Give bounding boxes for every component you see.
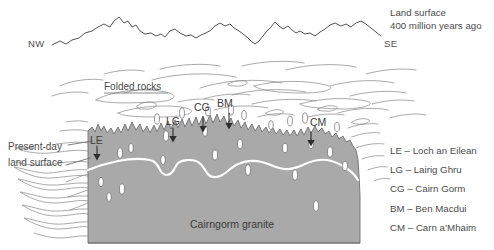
legend-name-cm: Carn a’Mhaim (416, 222, 476, 233)
legend-dash-lg: – (406, 164, 411, 175)
legend-dash-le: – (405, 145, 410, 156)
legend-item-le: LE – Loch an Eilean (390, 145, 477, 156)
land-surface-note-line1: Land surface (390, 6, 482, 19)
legend-code-lg: LG (390, 164, 403, 175)
geological-cross-section-figure: Land surface 400 million years ago NW SE… (0, 0, 494, 250)
orientation-label-se: SE (384, 38, 397, 49)
land-surface-note: Land surface 400 million years ago (390, 6, 482, 32)
peak-marker-cg: CG (194, 101, 210, 114)
legend-name-bm: Ben Macdui (415, 203, 466, 214)
ancient-land-surface-profile (52, 17, 381, 45)
legend-name-cg: Cairn Gorm (415, 183, 465, 194)
legend-item-lg: LG – Lairig Ghru (390, 164, 477, 175)
legend-item-cm: CM – Carn a’Mhaim (390, 222, 477, 233)
legend-code-cm: CM (390, 222, 405, 233)
legend-dash-cg: – (407, 183, 412, 194)
land-surface-note-line2: 400 million years ago (390, 19, 482, 32)
legend-dash-cm: – (408, 222, 413, 233)
legend-item-bm: BM – Ben Macdui (390, 203, 477, 214)
orientation-label-nw: NW (28, 38, 44, 49)
legend-item-cg: CG – Cairn Gorm (390, 183, 477, 194)
present-day-surface-label-line2: land surface (8, 157, 62, 170)
legend: LE – Loch an Eilean LG – Lairig Ghru CG … (390, 145, 477, 241)
present-day-surface-label-line1: Present-day (8, 141, 62, 154)
legend-code-cg: CG (390, 183, 405, 194)
peak-marker-bm: BM (217, 97, 233, 110)
legend-code-bm: BM (390, 203, 405, 214)
legend-name-lg: Lairig Ghru (414, 164, 462, 175)
legend-dash-bm: – (407, 203, 412, 214)
peak-marker-cm: CM (310, 116, 326, 129)
legend-code-le: LE (390, 145, 402, 156)
peak-marker-lg: LG (166, 115, 180, 128)
peak-marker-le: LE (90, 134, 103, 147)
left-folded-rock-layers (14, 121, 88, 238)
legend-name-le: Loch an Eilean (413, 145, 477, 156)
folded-rocks-label: Folded rocks (104, 81, 161, 94)
cairngorm-granite-label: Cairngorm granite (190, 218, 274, 231)
